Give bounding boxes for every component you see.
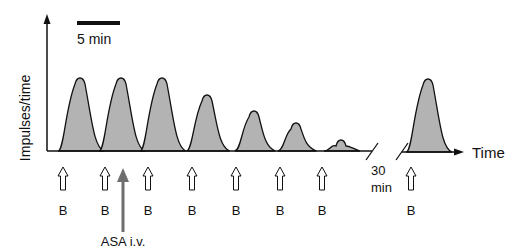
stimulus-label: B (144, 203, 153, 218)
stimulus-label: B (101, 203, 110, 218)
y-axis-label: Impulses/time (17, 75, 33, 162)
stimulus-arrow-icon (275, 167, 285, 190)
stimulus-label: B (276, 203, 285, 218)
scale-bar-label: 5 min (77, 31, 111, 47)
stimulus-arrow-icon (406, 167, 416, 190)
stimulus-label: B (407, 203, 416, 218)
x-axis-label: Time (472, 144, 505, 161)
x-axis-arrow-icon (454, 149, 464, 156)
y-axis-arrow-icon (44, 14, 51, 24)
peak-6 (278, 123, 317, 151)
gap-label-number: 30 (371, 163, 385, 178)
peak-1 (58, 78, 104, 151)
stimulus-label: B (188, 203, 197, 218)
drug-label: ASA i.v. (101, 234, 146, 249)
stimulus-label: B (318, 203, 327, 218)
scale-bar (77, 21, 120, 25)
stimulus-label: B (59, 203, 68, 218)
stimulus-arrow-icon (100, 167, 110, 190)
drug-arrow-head-icon (117, 168, 129, 182)
impulse-diagram: Impulses/time 5 min Time 30 min BBBBBBBB… (0, 0, 518, 252)
stimulus-arrow-icon (231, 167, 241, 190)
gap-label-unit: min (371, 180, 392, 195)
stimulus-arrow-icon (317, 167, 327, 190)
stimulus-arrow-icon (58, 167, 68, 190)
peak-8 (406, 79, 452, 152)
stimuli-group: BBBBBBBB (58, 167, 416, 218)
peak-3 (140, 78, 186, 151)
peak-7 (324, 140, 360, 151)
stimulus-arrow-icon (143, 167, 153, 190)
stimulus-label: B (232, 203, 241, 218)
stimulus-arrow-icon (187, 167, 197, 190)
peaks-group (58, 78, 452, 152)
peak-4 (186, 95, 229, 151)
peak-5 (235, 111, 276, 151)
peak-2 (99, 78, 145, 151)
